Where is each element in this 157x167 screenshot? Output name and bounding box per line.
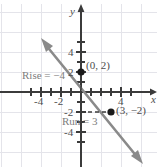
point-0-2 [77,68,84,75]
point-label-3-neg2: (3, −2) [116,105,146,116]
point-label-0-2: (0, 2) [86,60,110,71]
y-tick-label-2: 2 [68,67,74,78]
x-tick-label-neg2: -2 [54,96,63,107]
point-3-neg2 [107,108,114,115]
y-tick-label-neg4: -4 [64,127,73,138]
coordinate-plane-svg [0,0,157,167]
rise-annotation: Rise = −4 [22,70,65,81]
y-axis-label: y [70,6,75,17]
run-annotation: Run = 3 [62,116,98,127]
y-tick-label-4: 4 [68,47,74,58]
x-axis-label: x [151,94,156,105]
slope-graph-figure: y x -4 -2 4 4 2 -2 -4 (0, 2) (3, −2) Ris… [0,0,157,167]
x-axis [0,89,157,96]
x-tick-label-neg4: -4 [34,96,43,107]
